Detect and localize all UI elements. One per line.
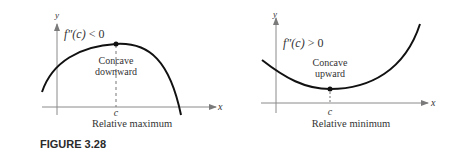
left-panel-concave-down: x y f″(c) < 0 Concave downward c Relativ…: [42, 10, 223, 129]
right-min-point: [328, 87, 333, 92]
right-panel-concave-up: x y f″(c) > 0 Concave upward c Relative …: [261, 9, 436, 129]
right-extremum-label: Relative minimum: [312, 118, 390, 129]
right-condition: f″(c) > 0: [283, 36, 323, 50]
left-max-point: [114, 42, 119, 47]
right-concavity-line2: upward: [315, 68, 345, 79]
left-condition: f″(c) < 0: [64, 27, 104, 41]
right-concavity-line1: Concave: [313, 57, 349, 68]
right-x-axis-label: x: [430, 97, 436, 108]
left-x-axis-label: x: [217, 101, 223, 112]
second-derivative-test-figure: x y f″(c) < 0 Concave downward c Relativ…: [0, 0, 463, 151]
right-y-axis-label: y: [272, 9, 277, 19]
left-concavity-line1: Concave: [99, 55, 135, 66]
left-concavity-line2: downward: [95, 66, 137, 77]
figure-caption: FIGURE 3.28: [40, 138, 106, 150]
left-y-axis-label: y: [54, 10, 59, 20]
left-c-label: c: [114, 107, 119, 118]
right-c-label: c: [328, 106, 333, 117]
left-extremum-label: Relative maximum: [92, 118, 172, 129]
